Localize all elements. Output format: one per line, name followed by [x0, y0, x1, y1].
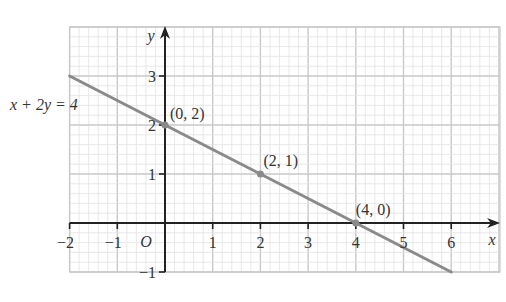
- grid: [70, 27, 500, 272]
- x-tick-label: 1: [209, 234, 217, 251]
- x-tick-label: −2: [57, 234, 74, 251]
- point-marker: [162, 122, 169, 129]
- x-tick-label: 3: [304, 234, 312, 251]
- point-marker: [257, 171, 264, 178]
- point-label: (0, 2): [170, 105, 205, 123]
- y-tick-label: −1: [139, 264, 156, 281]
- y-tick-label: 2: [148, 117, 156, 134]
- x-tick-label: 6: [447, 234, 455, 251]
- x-tick-label: −1: [105, 234, 122, 251]
- y-axis-label: y: [145, 27, 155, 45]
- point-label: (2, 1): [263, 152, 298, 170]
- y-tick-label: 1: [148, 166, 156, 183]
- x-tick-label: 4: [352, 234, 360, 251]
- y-tick-label: 3: [148, 68, 156, 85]
- origin-label: O: [140, 233, 152, 250]
- equation-label: x + 2y = 4: [9, 96, 78, 114]
- x-tick-label: 5: [400, 234, 408, 251]
- x-tick-label: 2: [256, 234, 264, 251]
- x-axis-label: x: [487, 231, 495, 248]
- graph-canvas: −2−1123456−1123Oxyx + 2y = 4(0, 2)(2, 1)…: [0, 0, 506, 302]
- point-marker: [352, 220, 359, 227]
- point-label: (4, 0): [356, 201, 391, 219]
- axes: [70, 26, 500, 272]
